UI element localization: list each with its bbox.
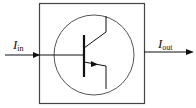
output-current-label: Iout bbox=[158, 37, 173, 52]
input-label-sub: in bbox=[17, 44, 23, 53]
output-label-sub: out bbox=[162, 43, 172, 52]
input-current-label: Iin bbox=[13, 38, 24, 53]
emitter-lead bbox=[84, 62, 106, 89]
transistor-diagram bbox=[0, 0, 196, 108]
emitter-arrow-icon bbox=[91, 61, 98, 67]
output-arrow-icon bbox=[186, 49, 194, 55]
block-box bbox=[40, 4, 145, 104]
collector-lead bbox=[84, 16, 106, 48]
